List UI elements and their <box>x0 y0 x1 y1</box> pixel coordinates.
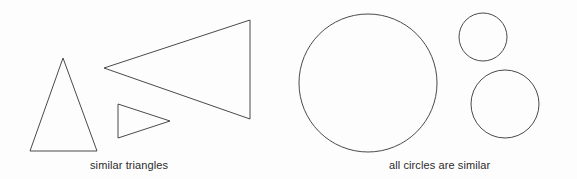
circles-group <box>299 13 539 152</box>
upright-triangle <box>30 58 97 151</box>
large-left-pointing-triangle <box>104 20 250 119</box>
small-circle <box>459 13 507 61</box>
large-circle <box>299 14 437 152</box>
triangles-group <box>30 20 250 151</box>
small-right-pointing-triangle <box>118 104 170 138</box>
caption-similar-triangles: similar triangles <box>90 159 168 172</box>
diagram-canvas <box>0 0 577 179</box>
caption-all-circles-are-similar: all circles are similar <box>389 159 490 172</box>
medium-circle <box>471 70 539 138</box>
similar-figures-diagram: similar triangles all circles are simila… <box>0 0 577 179</box>
